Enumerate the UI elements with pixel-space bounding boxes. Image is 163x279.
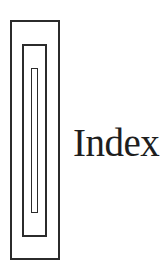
index-label: Index <box>73 121 159 165</box>
inner-rectangle-icon <box>31 68 38 213</box>
